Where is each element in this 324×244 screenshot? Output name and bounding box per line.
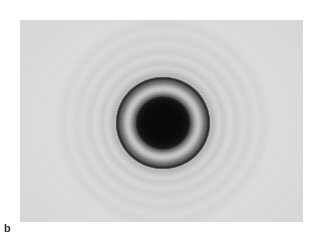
figure-root: b <box>0 0 324 244</box>
subfigure-label: b <box>4 222 11 235</box>
diffraction-micrograph-panel <box>20 20 303 222</box>
central-transmitted-beam-disc <box>136 97 190 150</box>
